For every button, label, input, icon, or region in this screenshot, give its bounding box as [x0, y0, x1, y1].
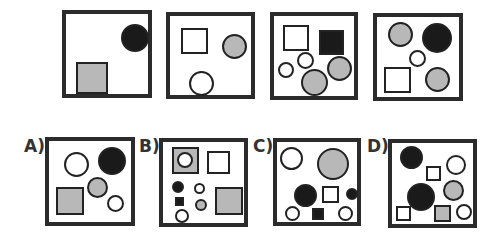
black-circle-icon [400, 146, 423, 169]
option-b-label: B) [139, 136, 160, 156]
black-circle-icon [346, 188, 358, 200]
gray-square-icon [56, 187, 84, 215]
white-circle-icon [107, 195, 124, 212]
gray-circle-icon [388, 22, 413, 47]
option-d-label: D) [367, 136, 389, 156]
figure-3 [270, 12, 358, 100]
black-circle-icon [121, 24, 149, 52]
white-square-icon [426, 166, 441, 181]
option-c[interactable] [273, 138, 361, 226]
white-circle-icon [446, 155, 466, 175]
figure-1 [62, 10, 152, 98]
white-square-icon [181, 28, 208, 54]
white-circle-icon [409, 50, 426, 67]
gray-circle-icon [87, 177, 108, 198]
white-circle-icon [285, 206, 300, 221]
white-square-icon [283, 25, 309, 51]
black-circle-icon [172, 181, 184, 193]
white-circle-icon [177, 152, 193, 168]
white-square-icon [322, 186, 339, 203]
black-circle-icon [98, 147, 126, 175]
black-circle-icon [407, 183, 435, 211]
white-circle-icon [194, 183, 205, 194]
white-circle-icon [297, 52, 314, 69]
gray-circle-icon [443, 180, 464, 201]
gray-circle-icon [327, 56, 352, 81]
gray-circle-icon [222, 34, 247, 59]
white-circle-icon [278, 62, 294, 78]
white-circle-icon [280, 147, 303, 170]
black-square-icon [319, 30, 344, 55]
gray-circle-icon [195, 199, 207, 211]
figure-4 [373, 13, 463, 101]
white-circle-icon [456, 204, 472, 220]
gray-square-icon [434, 205, 451, 222]
white-square-icon [396, 206, 411, 221]
white-circle-icon [189, 71, 214, 96]
option-c-label: C) [253, 136, 273, 156]
black-square-icon [175, 197, 184, 206]
white-circle-icon [175, 209, 189, 223]
option-a-label: A) [24, 136, 45, 156]
gray-square-icon [76, 62, 108, 94]
option-b[interactable] [159, 138, 248, 227]
gray-circle-icon [425, 67, 450, 92]
white-circle-icon [338, 206, 353, 221]
white-circle-icon [64, 152, 89, 177]
black-circle-icon [294, 184, 317, 207]
option-d[interactable] [388, 139, 477, 228]
gray-circle-icon [301, 69, 328, 96]
black-circle-icon [422, 23, 452, 53]
figure-2 [166, 12, 255, 99]
option-a[interactable] [45, 137, 135, 226]
gray-square-icon [215, 187, 243, 215]
gray-circle-icon [317, 148, 349, 180]
white-square-icon [207, 151, 230, 174]
white-square-icon [384, 67, 411, 93]
black-square-icon [312, 208, 324, 220]
